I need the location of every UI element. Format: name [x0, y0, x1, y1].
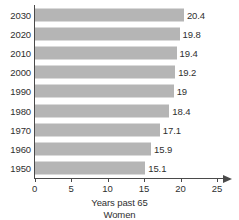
bar-value-label: 20.4	[187, 9, 205, 20]
category-label: 1980	[0, 105, 31, 116]
x-axis-tick	[71, 178, 72, 182]
bar-row: 199019	[0, 82, 239, 101]
bar-row: 200019.2	[0, 63, 239, 82]
x-axis-tick	[181, 178, 182, 182]
bar	[35, 27, 180, 40]
x-axis-title: Years past 65	[0, 197, 239, 208]
bar	[35, 162, 145, 175]
chart-subtitle: Women	[0, 209, 239, 220]
bar-value-label: 15.1	[148, 163, 166, 174]
category-label: 2030	[0, 9, 31, 20]
x-axis-tick-label: 20	[169, 183, 193, 194]
bar	[35, 104, 169, 117]
x-axis-tick-label: 15	[132, 183, 156, 194]
bar-value-label: 19.4	[180, 47, 198, 58]
bar-row: 195015.1	[0, 159, 239, 178]
bar-value-label: 19	[177, 86, 187, 97]
bar	[35, 142, 151, 155]
bar-row: 201019.4	[0, 43, 239, 62]
bar-value-label: 19.8	[183, 28, 201, 39]
category-label: 2020	[0, 28, 31, 39]
x-axis-tick-label: 0	[23, 183, 47, 194]
bar-value-label: 15.9	[154, 143, 172, 154]
plot-area: 203020.4202019.8201019.4200019.219901919…	[0, 0, 239, 180]
x-axis-arrow-icon	[223, 175, 232, 183]
bar-value-label: 19.2	[178, 67, 196, 78]
bar-row: 203020.4	[0, 5, 239, 24]
bar-row: 198018.4	[0, 101, 239, 120]
x-axis-tick	[108, 178, 109, 182]
category-label: 1990	[0, 86, 31, 97]
bar-row: 202019.8	[0, 24, 239, 43]
bar	[35, 85, 174, 98]
x-axis-tick-label: 5	[59, 183, 83, 194]
x-axis-tick-label: 10	[96, 183, 120, 194]
x-axis-line	[34, 178, 224, 179]
bar-value-label: 17.1	[163, 124, 181, 135]
bar	[35, 46, 177, 59]
bar	[35, 8, 184, 21]
category-label: 1960	[0, 143, 31, 154]
x-axis-tick	[144, 178, 145, 182]
x-axis-tick	[217, 178, 218, 182]
bar-row: 196015.9	[0, 139, 239, 158]
bar-row: 197017.1	[0, 120, 239, 139]
x-axis-tick-label: 25	[205, 183, 229, 194]
bar	[35, 123, 160, 136]
category-label: 1970	[0, 124, 31, 135]
category-label: 1950	[0, 163, 31, 174]
category-label: 2000	[0, 67, 31, 78]
x-axis-tick	[35, 178, 36, 182]
category-label: 2010	[0, 47, 31, 58]
x-axis: Years past 65 Women 0510152025	[0, 178, 239, 220]
bar-value-label: 18.4	[172, 105, 190, 116]
bar	[35, 66, 175, 79]
bar-chart: 203020.4202019.8201019.4200019.219901919…	[0, 0, 239, 220]
